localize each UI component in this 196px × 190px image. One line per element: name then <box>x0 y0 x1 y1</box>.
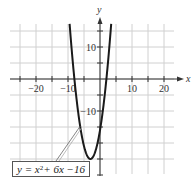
equation-suffix: + 6x −16 <box>43 163 85 175</box>
tick-marks <box>20 31 164 175</box>
x-tick-label: −20 <box>28 83 44 94</box>
y-axis-label: y <box>96 4 102 15</box>
x-tick-label: 20 <box>159 83 169 94</box>
label-leader-line-shadow <box>59 128 82 161</box>
y-tick-label: 10 <box>86 42 96 53</box>
x-tick-label: 10 <box>127 83 137 94</box>
x-axis-arrow-icon <box>177 77 184 82</box>
x-tick-label: −10 <box>60 83 76 94</box>
x-axis-label: x <box>185 73 191 84</box>
equation-exponent: 2 <box>40 164 44 172</box>
equation-label: y = x2 + 6x −16 <box>12 161 90 177</box>
y-tick-label: −10 <box>80 106 96 117</box>
equation-prefix: y = x <box>17 163 40 175</box>
y-axis-arrow-icon <box>98 17 103 24</box>
